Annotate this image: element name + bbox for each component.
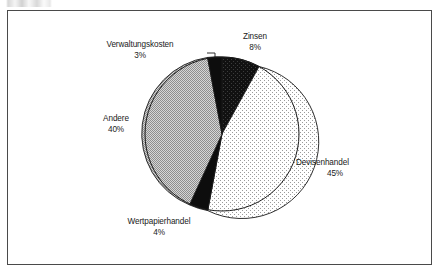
pie-label-verwaltungskosten-value: 3% (86, 51, 194, 62)
pie-label-zinsen-value: 8% (224, 43, 286, 54)
pie-label-wertpapierhandel-name: Wertpapierhandel (128, 217, 191, 226)
pie-label-verwaltungskosten-name: Verwaltungskosten (106, 40, 173, 49)
pie-label-wertpapierhandel-value: 4% (104, 228, 214, 239)
pie-label-andere-name: Andere (103, 114, 129, 123)
pie-chart (0, 0, 444, 276)
pie-label-andere-value: 40% (88, 125, 144, 136)
pie-label-wertpapierhandel: Wertpapierhandel 4% (104, 217, 214, 238)
pie-label-zinsen: Zinsen 8% (224, 32, 286, 53)
pie-label-devisenhandel: Devisenhandel 45% (296, 158, 390, 179)
pie-label-verwaltungskosten: Verwaltungskosten 3% (86, 40, 194, 61)
pie-label-devisenhandel-name: Devisenhandel (296, 158, 349, 167)
pie-label-devisenhandel-value: 45% (296, 169, 374, 180)
pie-label-andere: Andere 40% (88, 114, 144, 135)
pie-label-zinsen-name: Zinsen (243, 32, 267, 41)
leader-line-verwaltungskosten (207, 53, 215, 57)
